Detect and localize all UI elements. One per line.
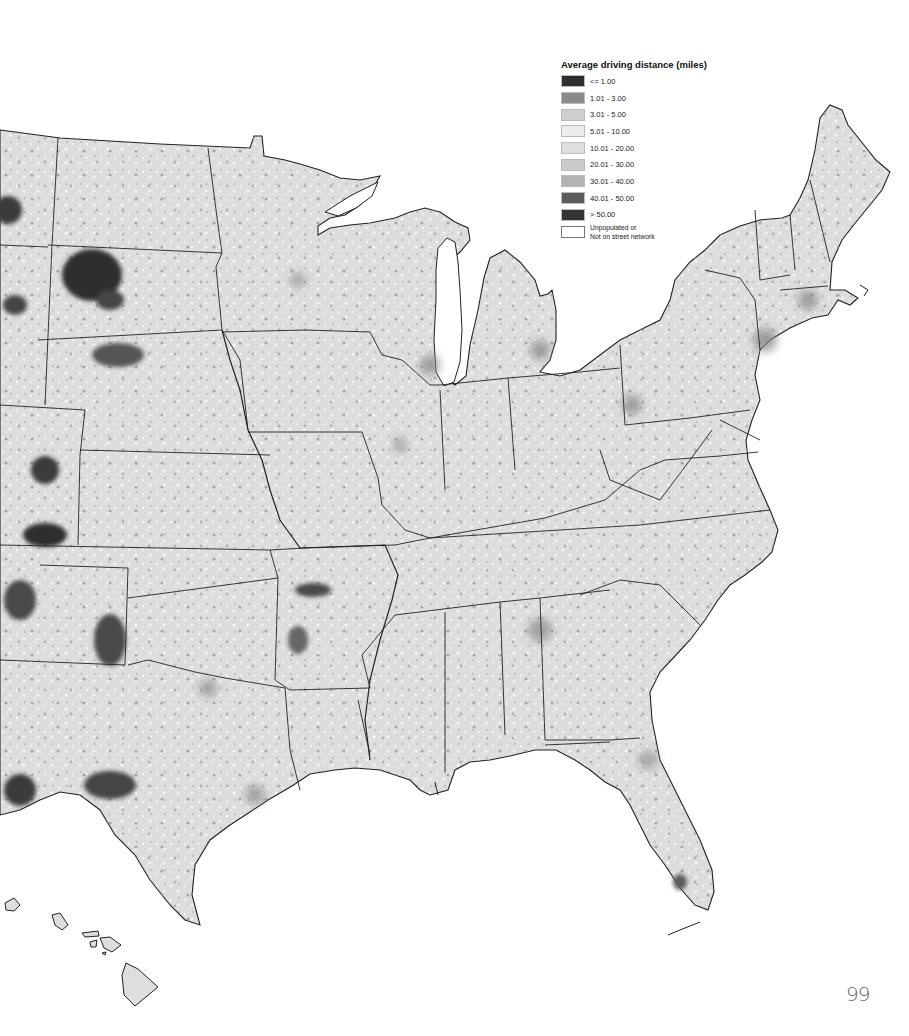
legend-item: 20.01 - 30.00 — [561, 156, 751, 173]
legend-label: 3.01 - 5.00 — [590, 110, 626, 119]
legend-item: 10.01 - 20.00 — [561, 140, 751, 157]
legend-label: 20.01 - 30.00 — [590, 160, 634, 169]
driving-distance-map: Average driving distance (miles) <= 1.00… — [0, 0, 909, 1036]
legend-swatch — [561, 75, 585, 87]
legend-item: > 50.00 — [561, 207, 751, 224]
legend-item: 1.01 - 3.00 — [561, 90, 751, 107]
legend-label: 5.01 - 10.00 — [590, 127, 630, 136]
legend-swatch — [561, 226, 585, 238]
legend-item: 3.01 - 5.00 — [561, 106, 751, 123]
legend-label: 40.01 - 50.00 — [590, 194, 634, 203]
legend-label: > 50.00 — [590, 210, 615, 219]
legend-item: 30.01 - 40.00 — [561, 173, 751, 190]
legend-swatch — [561, 92, 585, 104]
legend-item: <= 1.00 — [561, 73, 751, 90]
legend-swatch — [561, 159, 585, 171]
legend-label: Unpopulated or Not on street network — [590, 224, 655, 241]
legend-swatch — [561, 175, 585, 187]
legend-swatch — [561, 142, 585, 154]
legend-label: 30.01 - 40.00 — [590, 177, 634, 186]
legend-label: 1.01 - 3.00 — [590, 94, 626, 103]
legend-title: Average driving distance (miles) — [561, 59, 751, 70]
hawaii-inset — [5, 898, 158, 1006]
legend-swatch — [561, 125, 585, 137]
legend-item-unpopulated: Unpopulated or Not on street network — [561, 224, 751, 246]
map-legend: Average driving distance (miles) <= 1.00… — [561, 59, 751, 246]
legend-label: <= 1.00 — [590, 77, 615, 86]
legend-label: 10.01 - 20.00 — [590, 144, 634, 153]
legend-item: 40.01 - 50.00 — [561, 190, 751, 207]
legend-swatch — [561, 192, 585, 204]
legend-swatch — [561, 109, 585, 121]
legend-swatch — [561, 209, 585, 221]
us-map-canvas — [0, 0, 909, 1036]
page-number: 99 — [846, 982, 869, 1006]
legend-item: 5.01 - 10.00 — [561, 123, 751, 140]
